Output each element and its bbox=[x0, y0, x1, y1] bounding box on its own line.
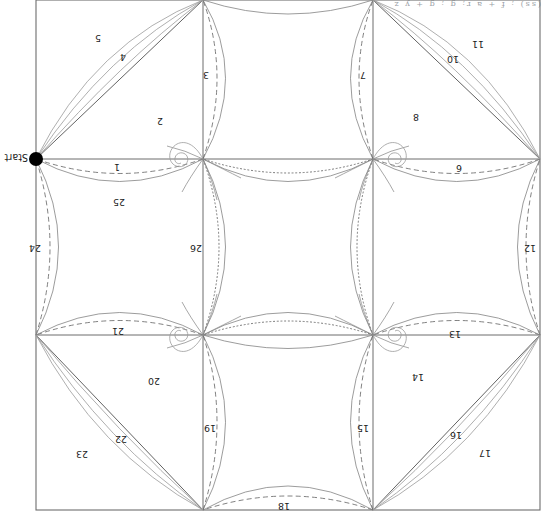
segment-label: 5 bbox=[95, 33, 101, 44]
segment-label: 1 bbox=[114, 162, 120, 173]
spiral-2-icon bbox=[170, 143, 203, 167]
outer-frame bbox=[36, 0, 540, 510]
corner-top-right bbox=[36, 335, 203, 510]
start-marker-dot bbox=[29, 152, 43, 166]
segment-label: 17 bbox=[479, 448, 491, 459]
segment-label: 4 bbox=[120, 52, 126, 63]
segment-label: 24 bbox=[29, 243, 41, 254]
corner-bottom-right bbox=[36, 0, 203, 159]
spiral-20-icon bbox=[170, 327, 203, 351]
path-diagram: 1 2 3 4 5 6 7 8 10 11 12 13 14 15 16 17 … bbox=[0, 0, 541, 522]
segment-label: 21 bbox=[112, 326, 124, 337]
segment-label: 26 bbox=[190, 243, 202, 254]
segment-label: 2 bbox=[157, 116, 163, 127]
segment-label: 16 bbox=[450, 430, 462, 441]
segment-label: 23 bbox=[76, 449, 88, 460]
segment-label: 8 bbox=[413, 112, 419, 123]
central-cell-arcs bbox=[203, 159, 373, 335]
segment-label: 6 bbox=[456, 163, 462, 174]
corner-bottom-left bbox=[373, 0, 540, 159]
segment-label: 7 bbox=[360, 70, 366, 81]
right-middle-cell-arcs bbox=[36, 159, 203, 335]
segment-label: 3 bbox=[203, 70, 209, 81]
grid-lines bbox=[36, 0, 540, 510]
diagram-stage: (ss) ; f + a r; g ; g + y z bbox=[0, 0, 541, 522]
start-marker-label: Start bbox=[4, 152, 28, 163]
segment-label: 18 bbox=[278, 501, 290, 512]
segment-label: 20 bbox=[148, 376, 160, 387]
segment-label: 22 bbox=[115, 434, 127, 445]
segment-label: 12 bbox=[524, 243, 536, 254]
bottom-middle-cell-arcs bbox=[203, 0, 373, 159]
corner-top-left bbox=[373, 335, 540, 510]
segment-label: 15 bbox=[357, 423, 369, 434]
segment-label: 10 bbox=[447, 54, 459, 65]
segment-label: 19 bbox=[204, 423, 216, 434]
left-middle-cell-arcs bbox=[373, 159, 540, 335]
segment-label: 25 bbox=[113, 197, 125, 208]
spiral-14-icon bbox=[373, 327, 406, 351]
top-middle-cell-arcs bbox=[203, 335, 373, 510]
segment-label: 13 bbox=[449, 329, 461, 340]
segment-label: 11 bbox=[472, 39, 484, 50]
segment-label: 14 bbox=[412, 372, 424, 383]
spiral-8-icon bbox=[373, 143, 406, 167]
segment-label-layer: 1 2 3 4 5 6 7 8 10 11 12 13 14 15 16 17 … bbox=[4, 33, 536, 512]
